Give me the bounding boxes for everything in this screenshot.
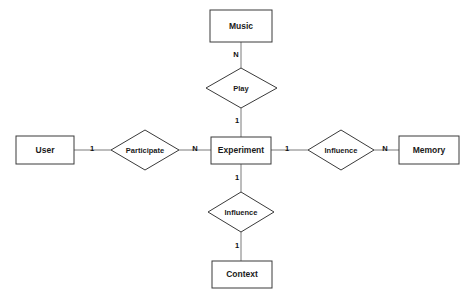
cardinality-user-participate: 1 xyxy=(90,144,94,153)
cardinality-influence-context: 1 xyxy=(235,241,239,250)
cardinality-music-play: N xyxy=(233,50,238,59)
entity-memory[interactable]: Memory xyxy=(399,136,459,164)
relationship-influence-context-label: Influence xyxy=(225,208,258,217)
relationship-play[interactable]: Play xyxy=(206,68,277,108)
cardinality-experiment-context: 1 xyxy=(235,173,239,182)
entity-music-label: Music xyxy=(229,21,253,31)
relationship-influence-memory-label: Influence xyxy=(325,146,358,155)
entity-user-label: User xyxy=(36,145,56,155)
relationship-participate-label: Participate xyxy=(126,146,164,155)
relationship-play-label: Play xyxy=(233,84,249,93)
cardinality-influence-memory: N xyxy=(382,144,387,153)
relationship-participate[interactable]: Participate xyxy=(111,130,179,170)
entity-context-label: Context xyxy=(226,269,258,279)
cardinality-participate-experiment: N xyxy=(192,144,197,153)
er-diagram-canvas: Music User Experiment Memory Context Pla… xyxy=(0,0,470,306)
entity-user[interactable]: User xyxy=(16,136,74,164)
er-diagram-svg: Music User Experiment Memory Context Pla… xyxy=(0,0,470,306)
entity-context[interactable]: Context xyxy=(212,261,272,288)
entity-memory-label: Memory xyxy=(413,145,446,155)
entity-experiment-label: Experiment xyxy=(218,145,264,155)
entity-experiment[interactable]: Experiment xyxy=(211,137,271,164)
relationship-influence-memory[interactable]: Influence xyxy=(308,130,374,170)
cardinality-experiment-influence: 1 xyxy=(285,144,289,153)
relationship-influence-context[interactable]: Influence xyxy=(208,192,274,232)
cardinality-play-experiment: 1 xyxy=(235,116,239,125)
entity-music[interactable]: Music xyxy=(210,10,272,42)
